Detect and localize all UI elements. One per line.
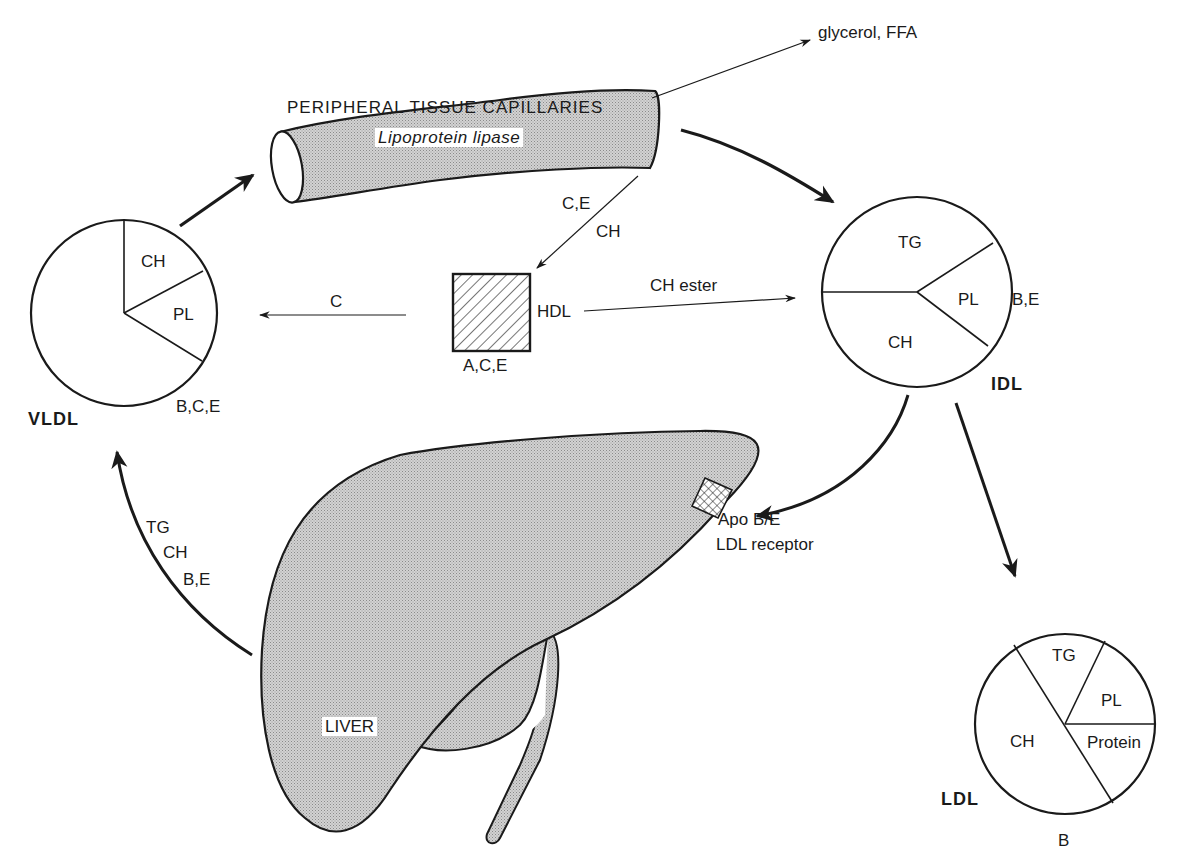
receptor-label-apo: Apo B/E [718, 511, 780, 528]
diagram-canvas [0, 0, 1185, 859]
enzyme-label: Lipoprotein lipase [375, 128, 523, 147]
ldl-apoproteins: B [1058, 832, 1069, 849]
hdl-apoproteins: A,C,E [463, 357, 507, 374]
transfer-label-ch: CH [596, 223, 621, 240]
arrow-to-glycerol [652, 40, 810, 98]
idl-name: IDL [991, 375, 1023, 393]
capillary-title: PERIPHERAL TISSUE CAPILLARIES [287, 99, 603, 116]
idl-segment-tg: TG [898, 234, 922, 251]
idl-segment-ch: CH [888, 334, 913, 351]
ldl-segment-ch: CH [1010, 733, 1035, 750]
receptor-label-ldl: LDL receptor [716, 536, 814, 553]
ldl-segment-protein: Protein [1087, 734, 1141, 751]
arrow-hdl-to-idl [584, 298, 795, 311]
liver [261, 431, 758, 843]
liver-transfer-ch: CH [163, 544, 188, 561]
ldl-segment-tg: TG [1052, 647, 1076, 664]
vldl-name: VLDL [28, 410, 79, 428]
liver-name: LIVER [322, 717, 377, 736]
transfer-label-ch-ester: CH ester [650, 277, 717, 294]
arrow-capillary-to-hdl [537, 176, 638, 268]
arrow-vldl-to-capillary [180, 175, 253, 226]
arrow-idl-to-ldl [956, 403, 1015, 576]
products-label: glycerol, FFA [818, 24, 917, 41]
idl-particle [822, 197, 1012, 387]
ldl-name: LDL [941, 790, 979, 808]
hdl-name: HDL [537, 303, 571, 320]
ldl-segment-pl: PL [1101, 692, 1122, 709]
liver-transfer-be: B,E [183, 571, 210, 588]
idl-apoproteins: B,E [1012, 291, 1039, 308]
liver-transfer-tg: TG [146, 519, 170, 536]
arrow-idl-to-liver [757, 395, 908, 516]
transfer-label-c: C [330, 293, 342, 310]
arrow-capillary-to-idl [681, 130, 833, 202]
hdl-particle [453, 274, 530, 351]
vldl-segment-ch: CH [141, 253, 166, 270]
idl-segment-pl: PL [958, 291, 979, 308]
transfer-label-ce: C,E [562, 195, 590, 212]
vldl-segment-pl: PL [173, 306, 194, 323]
vldl-apoproteins: B,C,E [176, 398, 220, 415]
